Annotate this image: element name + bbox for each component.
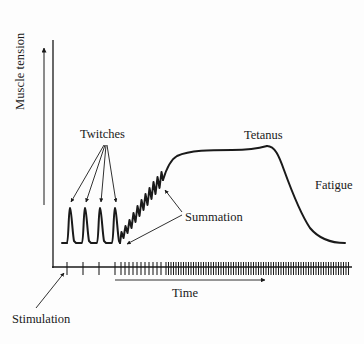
summation-arrow-upper bbox=[165, 190, 182, 212]
dense-tick-group bbox=[166, 262, 349, 275]
stimulation-label: Stimulation bbox=[12, 313, 70, 326]
twitch-peaks bbox=[67, 208, 120, 243]
y-axis-label: Muscle tension bbox=[14, 33, 27, 110]
twitches-arrow-4 bbox=[107, 145, 116, 202]
annotation-arrows bbox=[36, 145, 265, 308]
x-axis-label: Time bbox=[172, 287, 198, 300]
axis-group bbox=[52, 40, 352, 268]
muscle-tension-figure: Muscle tension Twitches Summation Tetanu… bbox=[0, 0, 364, 344]
tetanus-label: Tetanus bbox=[244, 129, 283, 142]
fatigue-label: Fatigue bbox=[315, 179, 353, 192]
twitches-arrow-1 bbox=[71, 145, 104, 202]
summation-label: Summation bbox=[185, 211, 243, 224]
tetanus-curve bbox=[163, 146, 267, 180]
fatigue-curve bbox=[267, 146, 345, 243]
stimulation-arrow bbox=[36, 273, 64, 308]
summation-spikes bbox=[120, 172, 163, 243]
twitches-label: Twitches bbox=[80, 128, 125, 141]
stimulus-tick-marks bbox=[67, 262, 349, 275]
